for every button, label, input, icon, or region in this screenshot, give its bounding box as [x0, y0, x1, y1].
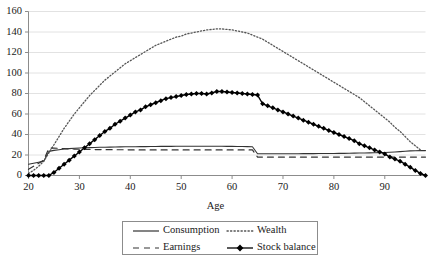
- legend-label-earnings: Earnings: [163, 242, 200, 253]
- legend-entry-stock-balance: Stock balance: [226, 239, 316, 256]
- data-series-layer: [26, 29, 428, 178]
- gridlines: [29, 12, 426, 156]
- x-tick-label: 80: [322, 182, 346, 193]
- legend-swatch-dashed-line-icon: [132, 242, 160, 254]
- y-tick-label: 140: [0, 27, 22, 38]
- x-tick-label: 40: [118, 182, 142, 193]
- x-tick-label: 50: [169, 182, 193, 193]
- x-tick-label: 60: [220, 182, 244, 193]
- series-markers-stock-balance: [26, 89, 428, 178]
- legend-swatch-solid-line-icon: [132, 225, 160, 237]
- y-tick-label: 100: [0, 68, 22, 79]
- y-tick-label: 60: [0, 109, 22, 120]
- y-tick-label: 80: [0, 88, 22, 99]
- y-tick-label: 40: [0, 129, 22, 140]
- legend-label-consumption: Consumption: [163, 225, 220, 236]
- y-tick-label: 20: [0, 150, 22, 161]
- y-tick-label: 0: [0, 170, 22, 181]
- series-line-stock-balance: [29, 91, 426, 175]
- legend-swatch-diamond-marker-line-icon: [226, 242, 254, 254]
- legend-entry-wealth: Wealth: [226, 222, 286, 239]
- legend-swatch-dotted-line-icon: [226, 225, 254, 237]
- y-tick-label: 120: [0, 47, 22, 58]
- y-tick-label: 160: [0, 6, 22, 17]
- legend-row-2: Earnings Stock balance: [123, 239, 319, 256]
- x-tick-label: 90: [373, 182, 397, 193]
- legend-label-stock-balance: Stock balance: [257, 242, 316, 253]
- x-tick-label: 70: [271, 182, 295, 193]
- x-tick-label: 20: [17, 182, 41, 193]
- series-line-wealth: [29, 29, 421, 174]
- x-axis-title: Age: [0, 200, 431, 211]
- series-line-earnings: [29, 148, 426, 169]
- chart-legend: Consumption Wealth Earnings: [122, 221, 318, 255]
- chart-container: 020406080100120140160 2030405060708090 A…: [0, 0, 431, 262]
- legend-label-wealth: Wealth: [257, 225, 286, 236]
- legend-entry-earnings: Earnings: [132, 239, 200, 256]
- legend-row-1: Consumption Wealth: [123, 222, 319, 239]
- legend-entry-consumption: Consumption: [132, 222, 220, 239]
- x-tick-label: 30: [67, 182, 91, 193]
